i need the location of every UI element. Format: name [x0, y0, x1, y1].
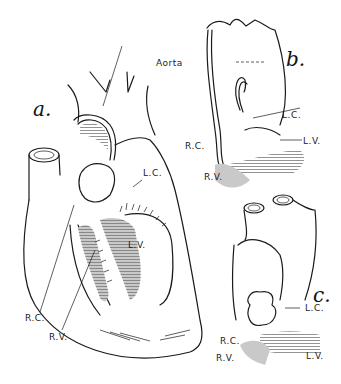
b-lv-label: L.V.: [303, 136, 321, 146]
b-lc-label: L.C.: [282, 110, 301, 120]
c-lc-label: L.C.: [305, 303, 324, 313]
panel-a-label: a.: [33, 97, 51, 121]
c-rc-label: R.C.: [220, 336, 240, 346]
aorta-label: Aorta: [156, 58, 183, 68]
panel-a-heart: [24, 46, 202, 358]
panel-b-heart: [207, 19, 304, 187]
c-rv-label: R.V.: [216, 353, 235, 363]
panel-c-heart: [233, 195, 320, 365]
a-lv-label: L.V.: [128, 240, 146, 250]
a-rc-label: R.C.: [25, 313, 45, 323]
b-rc-label: R.C.: [185, 141, 205, 151]
c-lv-label: L.V.: [306, 351, 324, 361]
a-lc-label: L.C.: [143, 168, 162, 178]
a-rv-label: R.V.: [49, 332, 68, 342]
b-rv-label: R.V.: [204, 172, 223, 182]
panel-b-label: b.: [286, 47, 305, 71]
